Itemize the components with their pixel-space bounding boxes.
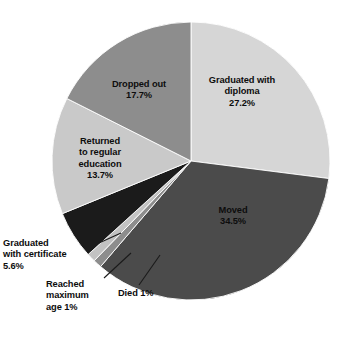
slice-label-returned-to-regular-education: Returned to regular education 13.7%	[63, 136, 137, 182]
slice-label-graduated-with-certificate: Graduated with certificate 5.6%	[3, 238, 99, 272]
slice-label-died: Died 1%	[118, 288, 180, 299]
slice-label-graduated-with-diploma: Graduated with diploma 27.2%	[196, 75, 288, 109]
slice-label-dropped-out: Dropped out 17.7%	[97, 79, 181, 102]
pie-chart: Graduated with diploma 27.2% Dropped out…	[0, 0, 344, 342]
slice-label-reached-maximum-age: Reached maximum age 1%	[46, 279, 116, 313]
slice-label-moved: Moved 34.5%	[196, 205, 270, 228]
